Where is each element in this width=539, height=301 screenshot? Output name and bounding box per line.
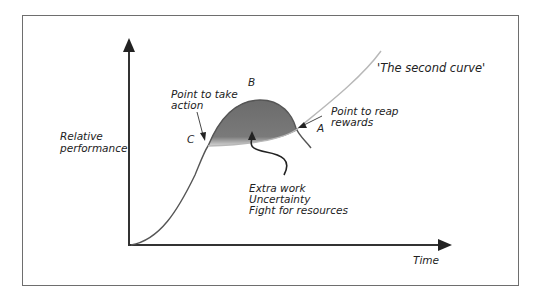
point-c-label: C xyxy=(187,134,194,145)
point-b-label: B xyxy=(248,77,255,88)
x-axis-label: Time xyxy=(413,255,439,266)
take-action-pointer xyxy=(197,112,203,135)
second-curve-label: 'The second curve' xyxy=(377,63,485,74)
point-a-label: A xyxy=(317,123,324,134)
take-action-arrowhead-icon xyxy=(200,132,206,141)
y-axis-label-line1: Relative xyxy=(60,131,103,142)
take-action-label-line2: action xyxy=(171,100,203,111)
reap-rewards-label-line2: rewards xyxy=(331,117,373,128)
y-axis-label-line2: performance xyxy=(60,143,127,154)
note-fight-for-resources: Fight for resources xyxy=(249,205,348,216)
x-axis-arrowhead-icon xyxy=(438,239,452,251)
y-axis-arrowhead-icon xyxy=(123,38,135,52)
notes-pointer-curve xyxy=(251,138,287,175)
